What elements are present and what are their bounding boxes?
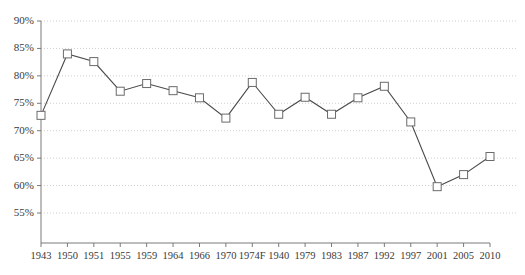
x-tick-label: 2001 xyxy=(427,251,448,262)
x-tick-label: 1950 xyxy=(57,251,78,262)
x-tick-label: 1970 xyxy=(215,251,236,262)
x-tick-label: 1966 xyxy=(189,251,210,262)
x-tick-label: 1992 xyxy=(374,251,395,262)
line-chart: 55%60%65%70%75%80%85%90% 194319501951195… xyxy=(0,0,525,275)
x-tick-label: 1940 xyxy=(268,251,289,262)
x-axis-labels: 194319501951195519591964196619701974F194… xyxy=(0,0,525,275)
x-tick-label: 2005 xyxy=(453,251,474,262)
x-tick-label: 2010 xyxy=(480,251,501,262)
x-tick-label: 1951 xyxy=(83,251,104,262)
x-tick-label: 1964 xyxy=(163,251,184,262)
x-tick-label: 1983 xyxy=(321,251,342,262)
x-tick-label: 1955 xyxy=(110,251,131,262)
x-tick-label: 1974F xyxy=(239,251,266,262)
x-tick-label: 1943 xyxy=(31,251,52,262)
x-tick-label: 1959 xyxy=(136,251,157,262)
x-tick-label: 1979 xyxy=(295,251,316,262)
x-tick-label: 1987 xyxy=(347,251,368,262)
x-tick-label: 1997 xyxy=(400,251,421,262)
